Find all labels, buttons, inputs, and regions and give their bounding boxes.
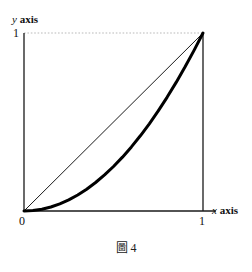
- y-axis-label-word: axis: [20, 13, 38, 25]
- x-axis-label-word: axis: [220, 204, 238, 216]
- origin-tick-zero: 0: [19, 215, 25, 227]
- plot-svg: [0, 0, 252, 232]
- y-axis-tick-one: 1: [13, 27, 19, 39]
- chord-line: [24, 33, 203, 211]
- y-axis-label: y axis: [12, 14, 38, 25]
- plot-area: y axis x axis 1 0 1: [0, 0, 252, 232]
- figure-container: y axis x axis 1 0 1 圖4: [0, 0, 252, 272]
- figure-caption-label: 圖: [116, 241, 128, 255]
- x-axis-label: x axis: [212, 205, 238, 216]
- figure-caption-number: 4: [131, 241, 137, 255]
- x-axis-tick-one: 1: [199, 215, 205, 227]
- figure-caption: 圖4: [0, 242, 252, 254]
